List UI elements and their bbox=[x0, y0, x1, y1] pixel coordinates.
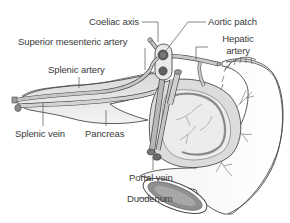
label-hepatic-line2: artery bbox=[216, 46, 260, 56]
label-splenic-vein: Splenic vein bbox=[15, 129, 65, 139]
pancreas-graft-diagram: Coeliac axis Aortic patch Superior mesen… bbox=[0, 0, 290, 223]
label-aortic-patch: Aortic patch bbox=[208, 17, 257, 27]
label-coeliac-axis: Coeliac axis bbox=[89, 17, 139, 27]
pancreas bbox=[12, 70, 241, 168]
label-hepatic-line1: Hepatic bbox=[216, 34, 260, 44]
label-superior-mesenteric-artery: Superior mesenteric artery bbox=[18, 37, 127, 47]
label-hepatic-artery: Hepatic artery bbox=[216, 34, 260, 55]
label-portal-vein: Portal vein bbox=[129, 173, 173, 183]
label-splenic-artery: Splenic artery bbox=[48, 65, 105, 75]
label-pancreas: Pancreas bbox=[85, 129, 124, 139]
label-duodenum: Duodenum bbox=[127, 194, 173, 204]
